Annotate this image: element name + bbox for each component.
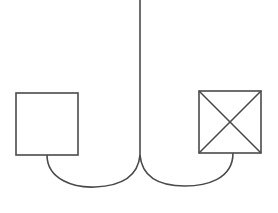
left-branch-curve [47, 155, 140, 187]
diagram-canvas [0, 0, 278, 213]
left-empty-box [16, 93, 78, 155]
right-branch-curve [140, 153, 233, 186]
right-crossed-box [199, 91, 261, 153]
